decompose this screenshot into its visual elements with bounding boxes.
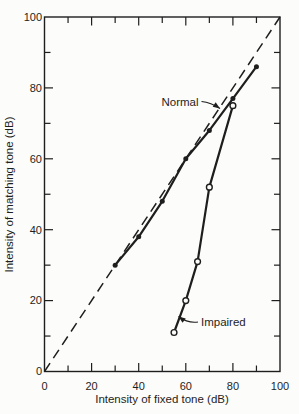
data-point-normal (113, 263, 118, 268)
data-point-impaired (183, 298, 189, 304)
chart-marks: 020406080100020406080100NormalImpaired (24, 11, 290, 392)
data-point-normal (136, 234, 141, 239)
series-label-impaired: Impaired (201, 316, 246, 328)
data-point-impaired (206, 184, 212, 190)
data-point-normal (207, 128, 212, 133)
x-tick-label: 100 (271, 380, 289, 392)
data-point-impaired (171, 330, 177, 336)
loudness-matching-chart: 020406080100020406080100NormalImpaired I… (0, 0, 299, 414)
y-tick-label: 80 (30, 82, 42, 94)
y-tick-label: 20 (30, 294, 42, 306)
data-point-impaired (230, 103, 236, 109)
data-point-normal (230, 96, 235, 101)
data-point-impaired (195, 259, 201, 265)
x-tick-label: 40 (133, 380, 145, 392)
y-tick-label: 40 (30, 224, 42, 236)
x-tick-label: 20 (85, 380, 97, 392)
x-axis-title: Intensity of fixed tone (dB) (95, 393, 229, 405)
y-tick-label: 0 (36, 365, 42, 377)
x-tick-label: 60 (180, 380, 192, 392)
data-point-normal (254, 64, 259, 69)
x-tick-label: 80 (227, 380, 239, 392)
x-tick-label: 0 (41, 380, 47, 392)
data-point-normal (160, 199, 165, 204)
annotation-arrowhead-normal (213, 102, 220, 108)
y-axis-title: Intensity of matching tone (dB) (3, 116, 15, 272)
data-point-normal (183, 156, 188, 161)
series-line-impaired (174, 106, 233, 333)
scanned-figure: 020406080100020406080100NormalImpaired I… (0, 0, 299, 414)
series-label-normal: Normal (161, 96, 198, 108)
y-tick-label: 60 (30, 153, 42, 165)
y-tick-label: 100 (24, 11, 42, 23)
